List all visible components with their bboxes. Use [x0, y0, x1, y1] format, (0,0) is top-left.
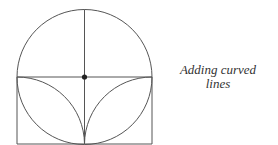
caption-line-1: Adding curved: [172, 63, 264, 77]
left-inner-arc: [17, 77, 85, 144]
right-inner-arc: [85, 77, 153, 144]
caption-line-2: lines: [172, 77, 264, 91]
caption: Adding curved lines: [172, 63, 264, 91]
center-dot: [82, 74, 87, 79]
